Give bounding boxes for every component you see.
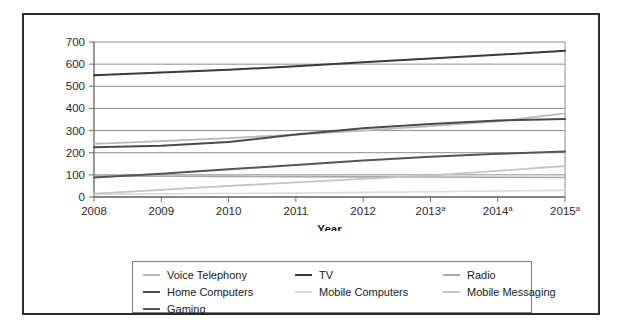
x-tick-label: 2010 — [216, 205, 242, 217]
y-tick-label: 400 — [66, 102, 85, 114]
legend-label: TV — [319, 269, 333, 281]
x-tick-label: 2008 — [81, 205, 107, 217]
legend-label: Mobile Computers — [319, 286, 408, 298]
y-tick-label: 600 — [66, 58, 85, 70]
legend-grid: Voice TelephonyTVRadioHome ComputersMobi… — [133, 267, 531, 316]
series-line — [94, 113, 565, 144]
legend-swatch-icon — [143, 291, 160, 293]
legend-swatch-icon — [143, 308, 160, 310]
x-tick-label: 2015a — [550, 204, 581, 217]
legend-entry[interactable]: Gaming — [143, 301, 295, 316]
legend-swatch-icon — [443, 274, 460, 276]
legend-swatch-icon — [295, 291, 312, 293]
legend-swatch-icon — [143, 274, 160, 276]
series-line — [94, 190, 565, 194]
x-tick-label: 2011 — [283, 205, 308, 217]
x-tick-label: 2009 — [148, 205, 174, 217]
legend-label: Radio — [467, 269, 496, 281]
legend-swatch-icon — [443, 291, 460, 293]
legend-label: Home Computers — [167, 286, 253, 298]
legend-entry[interactable]: Voice Telephony — [143, 267, 295, 282]
y-tick-label: 300 — [66, 125, 85, 137]
chart-legend: Voice TelephonyTVRadioHome ComputersMobi… — [132, 261, 532, 313]
chart-plot-area: 0100200300400500600700200820092010201120… — [24, 15, 602, 231]
y-tick-label: 200 — [66, 147, 85, 159]
y-tick-label: 700 — [66, 36, 85, 48]
series-line — [94, 152, 565, 178]
x-tick-label: 2012 — [350, 205, 376, 217]
figure-frame: 0100200300400500600700200820092010201120… — [22, 13, 600, 315]
legend-entry[interactable]: Home Computers — [143, 284, 295, 299]
legend-label: Gaming — [167, 303, 206, 315]
y-tick-label: 0 — [79, 191, 85, 203]
x-tick-label: 2013a — [416, 204, 447, 217]
legend-entry[interactable]: TV — [295, 267, 443, 282]
legend-entry[interactable]: Mobile Computers — [295, 284, 443, 299]
legend-label: Mobile Messaging — [467, 286, 556, 298]
legend-label: Voice Telephony — [167, 269, 247, 281]
y-tick-label: 500 — [66, 80, 85, 92]
series-line — [94, 176, 565, 178]
series-line — [94, 166, 565, 194]
legend-entry[interactable]: Mobile Messaging — [443, 284, 543, 299]
x-tick-label: 2014a — [483, 204, 514, 217]
series-line — [94, 51, 565, 75]
x-axis-title: Year — [317, 223, 342, 231]
legend-swatch-icon — [295, 274, 312, 276]
y-tick-label: 100 — [66, 169, 85, 181]
legend-entry[interactable]: Radio — [443, 267, 543, 282]
line-chart-svg: 0100200300400500600700200820092010201120… — [24, 15, 602, 231]
